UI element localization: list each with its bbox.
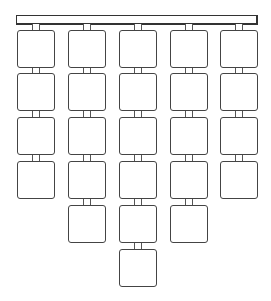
- hanging-box-diagram: [0, 0, 271, 301]
- column-3-box-5: [119, 205, 157, 243]
- column-4-box-5: [170, 205, 208, 243]
- column-2-box-4: [68, 161, 106, 199]
- column-2-box-3: [68, 117, 106, 155]
- column-1-box-1: [17, 30, 55, 68]
- column-4-box-2: [170, 73, 208, 111]
- column-2-box-1: [68, 30, 106, 68]
- column-5-box-3: [220, 117, 258, 155]
- column-1-box-2: [17, 73, 55, 111]
- column-3-box-2: [119, 73, 157, 111]
- column-5-box-4: [220, 161, 258, 199]
- column-4-box-4: [170, 161, 208, 199]
- column-3-box-1: [119, 30, 157, 68]
- column-1-box-3: [17, 117, 55, 155]
- column-4-box-3: [170, 117, 208, 155]
- column-4-box-1: [170, 30, 208, 68]
- column-1-box-4: [17, 161, 55, 199]
- column-3-box-4: [119, 161, 157, 199]
- column-5-box-2: [220, 73, 258, 111]
- column-3-box-6: [119, 249, 157, 287]
- column-2-box-2: [68, 73, 106, 111]
- column-3-box-3: [119, 117, 157, 155]
- column-5-box-1: [220, 30, 258, 68]
- column-2-box-5: [68, 205, 106, 243]
